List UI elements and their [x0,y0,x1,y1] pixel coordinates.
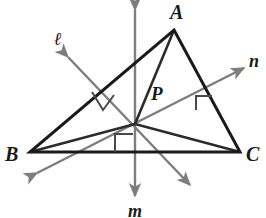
line-label-m: m [128,202,142,218]
point-label-p: P [151,84,163,103]
line-label-n: n [249,52,259,70]
segment-PC [135,124,240,152]
vertex-label-b: B [5,144,18,164]
line-l [68,57,190,185]
right-angle-mark-bc [115,134,133,152]
segment-PA [135,30,174,124]
geometry-canvas [0,0,266,218]
line-label-l: ℓ [54,30,62,48]
vertex-label-c: C [246,144,259,164]
geometry-figure: A B C P ℓ m n [0,0,266,218]
vertex-label-a: A [170,2,183,22]
